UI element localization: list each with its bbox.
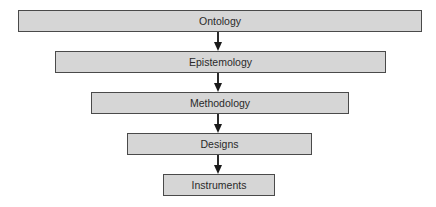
node-label: Ontology	[199, 15, 241, 27]
node-label: Epistemology	[189, 56, 252, 68]
arrow-down-icon	[214, 124, 222, 133]
arrow-down-icon	[214, 165, 222, 174]
arrow-down-icon	[214, 42, 222, 51]
arrow-down-icon	[214, 83, 222, 92]
node-epistemology: Epistemology	[55, 51, 386, 73]
node-instruments: Instruments	[163, 174, 275, 196]
node-methodology: Methodology	[91, 92, 349, 114]
node-label: Instruments	[192, 179, 247, 191]
node-label: Designs	[201, 138, 239, 150]
node-label: Methodology	[190, 97, 250, 109]
node-ontology: Ontology	[18, 10, 422, 32]
node-designs: Designs	[127, 133, 312, 155]
